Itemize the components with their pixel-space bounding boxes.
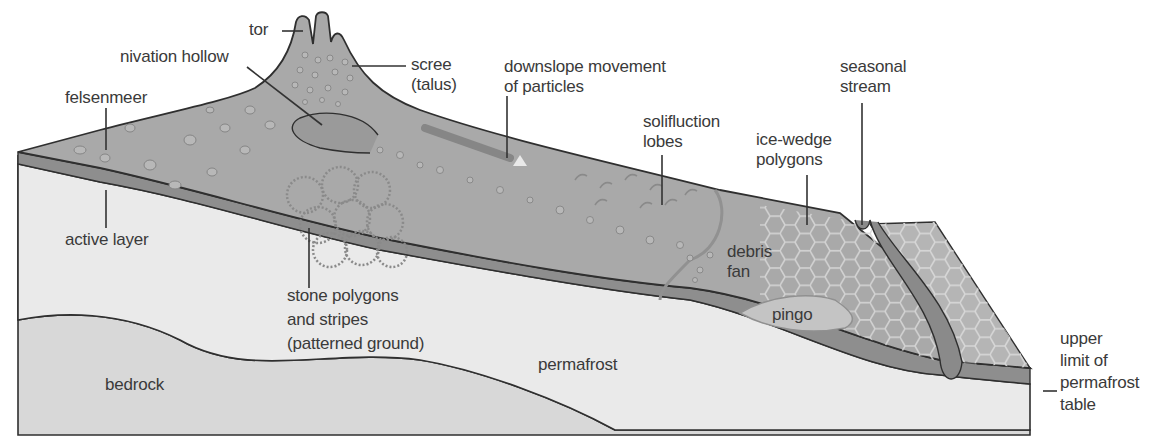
label-bedrock: bedrock [105,375,164,395]
label-permafrost: permafrost [538,355,617,375]
label-ice-wedge-polygons: ice-wedge polygons [756,130,832,170]
label-stone-polygons: stone polygons and stripes (patterned gr… [287,284,424,356]
label-pingo: pingo [772,305,813,325]
label-seasonal-stream: seasonal stream [840,57,906,97]
label-solifluction-lobes: solifluction lobes [643,112,720,152]
label-scree: scree (talus) [411,55,457,95]
label-tor: tor [249,20,268,40]
label-nivation-hollow: nivation hollow [120,47,229,67]
label-debris-fan: debris fan [727,242,772,282]
label-permafrost-table: upper limit of permafrost table [1060,328,1139,416]
label-active-layer: active layer [65,230,149,250]
label-felsenmeer: felsenmeer [65,88,147,108]
label-downslope-movement: downslope movement of particles [504,57,666,97]
